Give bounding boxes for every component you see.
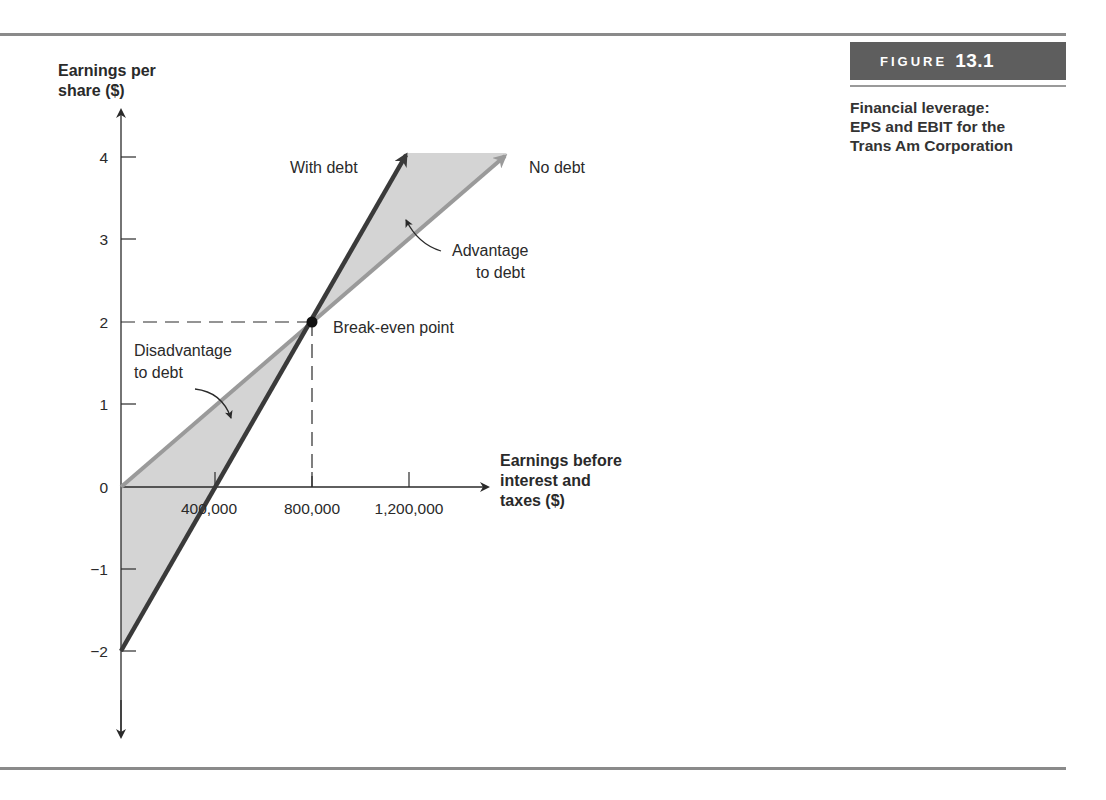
svg-text:400,000: 400,000 (181, 500, 237, 517)
advantage-label: Advantage to debt (452, 242, 533, 281)
y-axis-title: Earnings per share ($) (58, 62, 160, 99)
svg-text:−2: −2 (90, 643, 108, 660)
svg-text:0: 0 (99, 479, 108, 496)
svg-text:800,000: 800,000 (284, 500, 340, 517)
svg-text:1: 1 (99, 396, 108, 413)
x-tick-labels: 400,000 800,000 1,200,000 (181, 500, 444, 517)
svg-text:3: 3 (99, 231, 108, 248)
no-debt-label: No debt (529, 159, 586, 176)
with-debt-label: With debt (290, 159, 358, 176)
break-even-point-marker (307, 317, 318, 328)
eps-ebit-chart: Earnings per share ($) Earnings before i… (0, 0, 1106, 800)
disadvantage-label: Disadvantage to debt (134, 342, 236, 381)
with-debt-line (121, 155, 406, 651)
y-tick-labels: 4 3 2 1 0 −1 −2 (90, 149, 108, 660)
x-ticks (215, 472, 409, 487)
svg-text:1,200,000: 1,200,000 (375, 500, 444, 517)
bottom-rule (0, 767, 1066, 770)
x-axis-title: Earnings before interest and taxes ($) (500, 452, 626, 509)
svg-text:2: 2 (99, 314, 108, 331)
svg-text:4: 4 (99, 149, 108, 166)
break-even-label: Break-even point (333, 319, 455, 336)
svg-text:−1: −1 (90, 561, 108, 578)
